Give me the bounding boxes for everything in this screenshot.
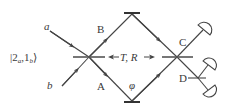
input-state-label: |2a,1b⟩ <box>10 51 37 65</box>
path-a-label: A <box>97 80 105 92</box>
input-b-label: b <box>47 79 53 91</box>
phase-label: φ <box>129 79 135 91</box>
beamsplitter-params-label: T, R <box>120 51 138 63</box>
input-a-label: a <box>44 20 50 32</box>
port-d-label: D <box>179 72 187 84</box>
interferometer-diagram: a b |2a,1b⟩ B A T, R φ C D <box>0 0 226 108</box>
path-b-label: B <box>97 23 104 35</box>
port-c-label: C <box>179 36 186 48</box>
